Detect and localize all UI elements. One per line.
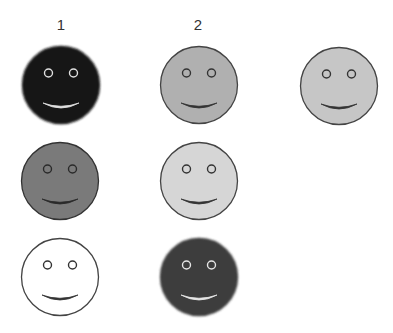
smiley-icon (159, 45, 239, 125)
face-circle (22, 143, 99, 220)
smiley-icon (20, 141, 100, 221)
smiley-icon (299, 46, 379, 126)
face-circle (23, 47, 100, 124)
smiley-face-charcoal (159, 237, 239, 317)
smiley-icon (20, 237, 100, 317)
smiley-icon (159, 237, 239, 317)
smiley-face-medium-gray (159, 45, 239, 125)
face-circle (22, 239, 99, 316)
column-label-2: 2 (183, 16, 213, 34)
face-circle (161, 47, 238, 124)
smiley-face-dark-gray (20, 141, 100, 221)
smiley-face-black (21, 45, 101, 125)
face-circle (161, 143, 238, 220)
smiley-face-pale-gray (159, 141, 239, 221)
smiley-face-white (20, 237, 100, 317)
face-circle (301, 48, 378, 125)
smiley-icon (159, 141, 239, 221)
column-label-1: 1 (46, 16, 76, 34)
smiley-face-light-gray (299, 46, 379, 126)
smiley-icon (21, 45, 101, 125)
face-circle (161, 239, 238, 316)
